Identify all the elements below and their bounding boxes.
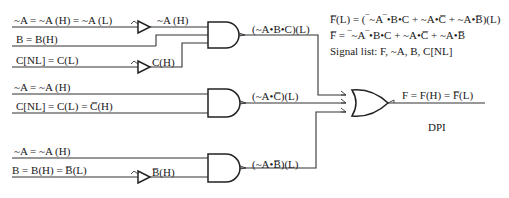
gate2-input1-label: ~A = ~A (H) (14, 81, 70, 93)
wire-gate1-out (239, 35, 346, 95)
buffer-icon (138, 21, 150, 33)
or-gate-icon (352, 90, 388, 116)
gate3-output-label: (~A•B̅)(L) (252, 158, 298, 170)
gate1-input2-label: B = B(H) (16, 33, 58, 45)
equation-line2: F̅ = ‾~A‾•B•C + ~A•C̅ + ~A•B̅ (330, 29, 465, 41)
buffer-icon (138, 61, 150, 73)
polarity-indicator-icon (131, 21, 138, 24)
gate3-input2-label: B = B(H) = B̅(L) (12, 164, 87, 176)
gate2-input2-label: C[NL] = C(L) = C̅(H) (16, 100, 113, 112)
polarity-indicator-icon (131, 171, 138, 174)
caption-dpi: DPI (428, 121, 446, 133)
and-gate-icon (208, 154, 240, 182)
or-output-label: F = F(H) = F̅(L) (402, 89, 473, 101)
gate3-input2-inverted-label: B̅(H) (152, 166, 175, 178)
buffer-icon (138, 171, 150, 183)
gate1-input3-label: C[NL] = C(L) (16, 54, 78, 66)
gate3-input1-label: ~A = ~A (H) (14, 145, 70, 157)
and-gate-icon (208, 22, 239, 48)
polarity-indicator-icon (131, 61, 138, 64)
gate1-output-label: (~A•B•C)(L) (252, 23, 310, 35)
gate1-input1-inverted-label: ~A (H) (157, 14, 188, 26)
polarity-indicator-icon (341, 91, 346, 95)
signal-list: Signal list: F, ~A, B, C[NL] (330, 45, 452, 57)
and-gate-icon (208, 89, 240, 117)
gate2-output-label: (~A•C̅)(L) (252, 90, 298, 102)
equation-line1: F̅(L) = (‾~A‾•B•C + ~A•C̅ + ~A•B̅)(L) (330, 13, 500, 25)
gate1-input1-label: ~A = ~A (H) = ~A (L) (14, 14, 112, 26)
polarity-indicator-icon (341, 99, 346, 103)
gate1-input3-inverted-label: C(H) (152, 56, 175, 68)
polarity-indicator-icon (341, 108, 346, 112)
